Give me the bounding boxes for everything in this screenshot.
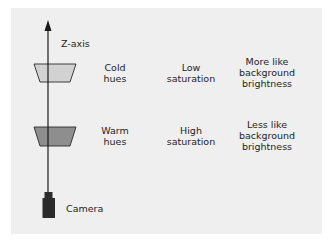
camera-icon <box>43 192 56 218</box>
far-saturation-line-1: Low <box>156 62 226 73</box>
near-saturation-label: High saturation <box>156 125 226 147</box>
near-hue-label: Warm hues <box>92 125 138 147</box>
far-plane-trapezoid <box>34 64 76 82</box>
z-axis-label: Z-axis <box>61 38 90 49</box>
far-brightness-label: More like background brightness <box>225 56 309 89</box>
near-brightness-line-1: Less like <box>225 119 309 130</box>
far-brightness-line-3: brightness <box>225 78 309 89</box>
far-brightness-line-2: background <box>225 67 309 78</box>
near-hue-line-1: Warm <box>92 125 138 136</box>
near-plane-trapezoid <box>34 127 76 146</box>
near-saturation-line-2: saturation <box>156 136 226 147</box>
near-saturation-line-1: High <box>156 125 226 136</box>
near-hue-line-2: hues <box>92 136 138 147</box>
far-brightness-line-1: More like <box>225 56 309 67</box>
z-axis-arrow-icon <box>45 20 52 31</box>
far-saturation-label: Low saturation <box>156 62 226 84</box>
camera-label: Camera <box>66 203 103 214</box>
far-hue-line-1: Cold <box>92 62 138 73</box>
near-brightness-line-2: background <box>225 130 309 141</box>
near-brightness-label: Less like background brightness <box>225 119 309 152</box>
near-brightness-line-3: brightness <box>225 141 309 152</box>
far-saturation-line-2: saturation <box>156 73 226 84</box>
far-hue-label: Cold hues <box>92 62 138 84</box>
far-hue-line-2: hues <box>92 73 138 84</box>
